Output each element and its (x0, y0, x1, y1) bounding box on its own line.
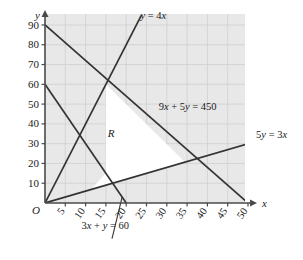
y-tick-label: 50 (28, 98, 40, 110)
x-axis-arrowhead (250, 200, 257, 207)
line-equation-label: 5y = 3x (256, 129, 287, 140)
y-tick-label: 60 (28, 78, 40, 90)
line-equation-label: 9x + 5y = 450 (159, 101, 217, 112)
y-tick-label: 10 (28, 177, 40, 189)
y-tick-label: 20 (28, 157, 40, 169)
y-axis-tick-labels: 102030405060708090 (28, 19, 40, 189)
x-tick-label: 5 (55, 206, 67, 217)
x-tick-label: 30 (153, 206, 168, 221)
linear-programming-plot: 102030405060708090 5101520253035404550 y… (0, 0, 303, 260)
origin-label: O (32, 204, 40, 216)
x-tick-label: 50 (235, 206, 250, 221)
x-tick-label: 10 (72, 206, 87, 221)
y-axis-title: y (34, 9, 40, 21)
x-tick-label: 35 (174, 206, 189, 221)
x-tick-label: 20 (113, 206, 128, 221)
x-axis-title: x (261, 197, 267, 209)
x-tick-label: 45 (214, 206, 229, 221)
x-tick-label: 40 (194, 206, 209, 221)
graph-figure: 102030405060708090 5101520253035404550 y… (0, 0, 303, 260)
line-equation-label: y = 4x (139, 10, 166, 21)
y-tick-label: 30 (28, 137, 40, 149)
line-equation-label: 3x + y = 60 (82, 220, 129, 231)
x-tick-label: 25 (133, 206, 148, 221)
y-tick-label: 80 (28, 38, 40, 50)
y-tick-label: 40 (28, 117, 40, 129)
y-tick-label: 70 (28, 58, 40, 70)
x-axis-tick-labels: 5101520253035404550 (55, 206, 250, 221)
y-axis-arrowhead (42, 10, 49, 17)
x-tick-label: 15 (93, 206, 108, 221)
region-label: R (107, 127, 115, 139)
